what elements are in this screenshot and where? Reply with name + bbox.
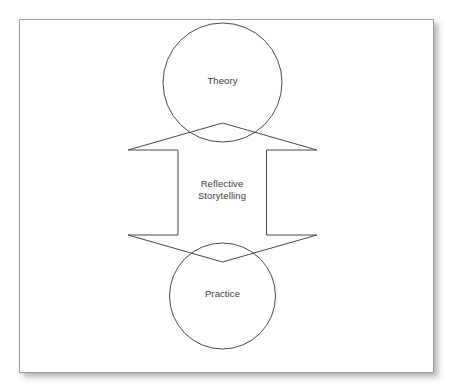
figure-root: Theory Reflective Storytelling Practice	[0, 0, 457, 391]
figure-frame	[19, 19, 434, 373]
